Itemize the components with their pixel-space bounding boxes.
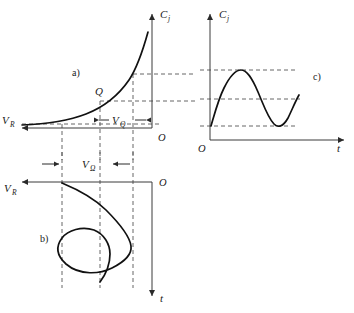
panel-c-y-axis-label: C bbox=[219, 8, 227, 20]
panel-b: b) V R V Ω O t bbox=[4, 152, 167, 304]
panel-c-origin-label: O bbox=[198, 143, 206, 154]
panel-a-q-label: Q bbox=[95, 85, 103, 97]
panel-c-curve bbox=[211, 70, 299, 126]
panel-b-label: b) bbox=[40, 233, 48, 245]
figure-svg: a) Q V R V Q C j O b) bbox=[0, 0, 354, 313]
panel-b-vomega-subscript: Ω bbox=[90, 164, 96, 173]
panel-a-y-axis-subscript: j bbox=[167, 14, 170, 23]
panel-a-y-axis-label: C bbox=[160, 8, 168, 20]
panel-c: c) C j O t bbox=[198, 8, 344, 154]
panel-a-origin-label: O bbox=[158, 132, 166, 143]
panel-b-vomega-label: V bbox=[82, 158, 90, 170]
panel-b-vr-label: V bbox=[4, 182, 12, 194]
panel-a-vq-label: V bbox=[112, 114, 120, 126]
panel-b-vr-subscript: R bbox=[11, 188, 17, 197]
panel-a-vr-label: V bbox=[2, 114, 10, 126]
panel-a: a) Q V R V Q C j O bbox=[2, 8, 195, 160]
panel-a-curve bbox=[22, 32, 148, 125]
panel-a-label: a) bbox=[72, 67, 80, 79]
panel-b-origin-label: O bbox=[159, 177, 167, 188]
panel-c-y-axis-subscript: j bbox=[226, 14, 229, 23]
panel-a-vr-subscript: R bbox=[9, 120, 15, 129]
panel-c-t-axis-label: t bbox=[337, 142, 341, 154]
panel-a-vq-subscript: Q bbox=[120, 120, 126, 129]
panel-c-label: c) bbox=[313, 71, 321, 83]
figure-container: a) Q V R V Q C j O b) bbox=[0, 0, 354, 313]
panel-b-t-axis-label: t bbox=[160, 292, 164, 304]
panel-b-curve bbox=[58, 183, 131, 282]
